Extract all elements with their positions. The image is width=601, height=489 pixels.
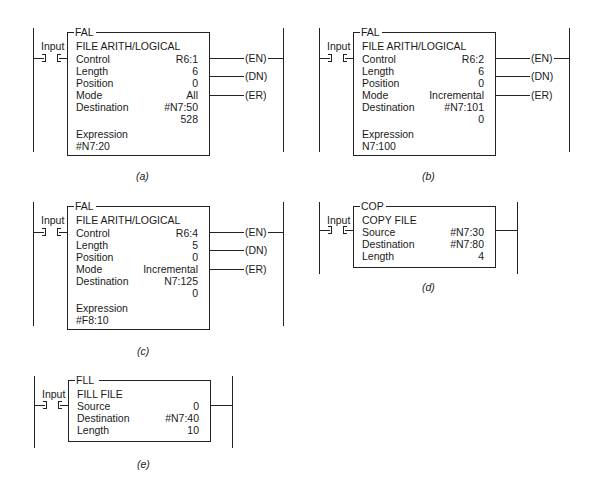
param-value: Incremental (429, 89, 484, 101)
expression-value: #F8:10 (76, 314, 109, 326)
param-row-source: Source0 (69, 400, 210, 412)
param-label: Destination (362, 101, 415, 113)
coil-dn[interactable]: (DN) (530, 70, 554, 82)
param-label: Length (77, 424, 109, 436)
left-power-rail (319, 202, 320, 274)
instruction-title: COPY FILE (362, 214, 417, 226)
param-row-position: Position0 (354, 77, 495, 89)
param-value: #N7:50 (164, 101, 198, 113)
param-value: 0 (192, 77, 198, 89)
param-value: R6:1 (176, 53, 198, 65)
param-row-position: Position0 (68, 77, 209, 89)
param-row-length: Length4 (354, 250, 495, 262)
coil-dn[interactable]: (DN) (244, 70, 268, 82)
coil-er[interactable]: (ER) (244, 263, 268, 275)
coil-en[interactable]: (EN) (530, 52, 554, 64)
param-value: 0 (478, 113, 484, 125)
param-row-length: Length5 (68, 239, 209, 251)
param-value: 528 (180, 113, 198, 125)
coil-er[interactable]: (ER) (244, 89, 268, 101)
instruction-mnemonic: FAL (74, 26, 96, 38)
left-power-rail (319, 28, 320, 152)
param-row-destination-value: 0 (354, 113, 495, 125)
fal-instruction-block[interactable]: FAL FILE ARITH/LOGICAL ControlR6:4 Lengt… (67, 206, 210, 330)
param-label: Position (76, 77, 113, 89)
param-value: 10 (187, 424, 199, 436)
instruction-mnemonic: FLL (75, 374, 99, 386)
param-value: All (186, 89, 198, 101)
rung-wire-dn (496, 76, 532, 77)
param-label: Mode (76, 89, 102, 101)
param-label: Destination (76, 275, 129, 287)
rung-wire-output (211, 405, 232, 406)
input-label: Input (327, 40, 350, 52)
right-power-rail (283, 202, 284, 326)
instruction-mnemonic: FAL (74, 200, 96, 212)
fal-instruction-block[interactable]: FAL FILE ARITH/LOGICAL ControlR6:1 Lengt… (67, 32, 210, 156)
instruction-mnemonic: COP (360, 200, 386, 212)
param-value: R6:4 (176, 227, 198, 239)
param-row-control: ControlR6:1 (68, 53, 209, 65)
param-row-control: ControlR6:4 (68, 227, 209, 239)
param-label: Control (362, 53, 396, 65)
figure-caption: (a) (136, 170, 149, 182)
instruction-title: FILE ARITH/LOGICAL (76, 214, 180, 226)
rung-wire-er (210, 269, 246, 270)
right-power-rail (569, 28, 570, 152)
param-value: 0 (192, 287, 198, 299)
param-value: #N7:80 (450, 238, 484, 250)
param-label: Length (76, 65, 108, 77)
param-value: #N7:101 (444, 101, 484, 113)
right-power-rail (517, 202, 518, 274)
fal-instruction-block[interactable]: FAL FILE ARITH/LOGICAL ControlR6:2 Lengt… (353, 32, 496, 156)
coil-dn[interactable]: (DN) (244, 244, 268, 256)
param-row-position: Position0 (68, 251, 209, 263)
param-value: 6 (192, 65, 198, 77)
expression-label: Expression (76, 128, 128, 140)
param-label: Control (76, 227, 110, 239)
param-label: Control (76, 53, 110, 65)
param-row-mode: ModeAll (68, 89, 209, 101)
input-label: Input (41, 214, 64, 226)
param-row-destination: Destination#N7:40 (69, 412, 210, 424)
left-power-rail (33, 202, 34, 326)
param-label: Source (362, 226, 395, 238)
rung-wire-er (496, 95, 532, 96)
param-value: 4 (478, 250, 484, 262)
coil-en[interactable]: (EN) (244, 226, 268, 238)
param-value: 0 (193, 400, 199, 412)
coil-en[interactable]: (EN) (244, 52, 268, 64)
param-value: #N7:30 (450, 226, 484, 238)
param-value: 0 (478, 77, 484, 89)
cop-instruction-block[interactable]: COP COPY FILE Source#N7:30 Destination#N… (353, 206, 496, 268)
rung-wire-dn (210, 76, 246, 77)
rung-wire-er (210, 95, 246, 96)
param-value: N7:125 (164, 275, 198, 287)
param-row-destination: DestinationN7:125 (68, 275, 209, 287)
param-row-destination: Destination#N7:80 (354, 238, 495, 250)
right-power-rail (283, 28, 284, 152)
param-value: 6 (478, 65, 484, 77)
instruction-title: FILE ARITH/LOGICAL (362, 40, 466, 52)
fll-instruction-block[interactable]: FLL FILL FILE Source0 Destination#N7:40 … (68, 380, 211, 442)
expression-value: N7:100 (362, 140, 396, 152)
coil-er[interactable]: (ER) (530, 89, 554, 101)
param-row-length: Length10 (69, 424, 210, 436)
rung-wire-output (496, 230, 517, 231)
param-label: Mode (76, 263, 102, 275)
param-value: 0 (192, 251, 198, 263)
param-row-control: ControlR6:2 (354, 53, 495, 65)
instruction-mnemonic: FAL (360, 26, 382, 38)
figure-caption: (c) (137, 345, 149, 357)
param-row-destination: Destination#N7:101 (354, 101, 495, 113)
rung-wire-dn (210, 250, 246, 251)
param-row-destination-value: 528 (68, 113, 209, 125)
param-label: Position (76, 251, 113, 263)
param-row-length: Length6 (68, 65, 209, 77)
param-row-mode: ModeIncremental (354, 89, 495, 101)
param-value: #N7:40 (165, 412, 199, 424)
instruction-title: FILL FILE (77, 388, 123, 400)
param-row-destination: Destination#N7:50 (68, 101, 209, 113)
param-label: Destination (77, 412, 130, 424)
param-value: 5 (192, 239, 198, 251)
